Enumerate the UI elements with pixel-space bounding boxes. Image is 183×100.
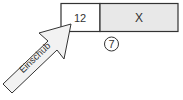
diagram: 12 X 7 Einschub — [0, 0, 183, 100]
box-left-label: 12 — [74, 12, 86, 24]
circled-number: 7 — [108, 38, 114, 50]
box-right-label: X — [135, 11, 143, 25]
insert-arrow-icon: Einschub — [3, 24, 71, 93]
